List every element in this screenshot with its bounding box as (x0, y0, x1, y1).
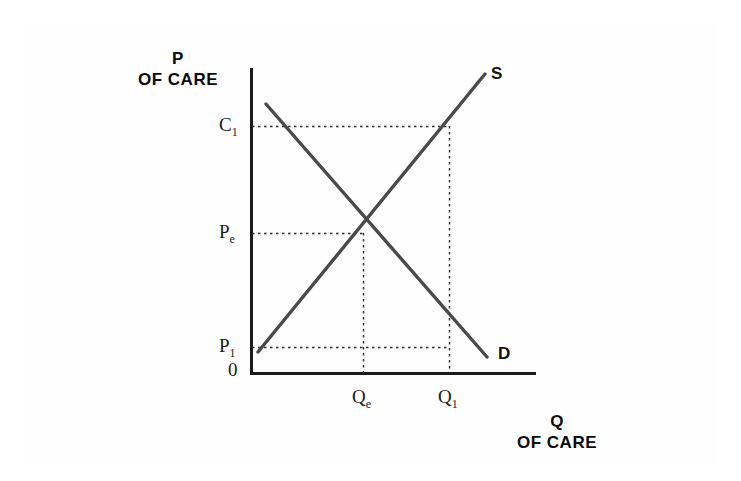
price-tick-c1-sub: 1 (232, 125, 238, 139)
supply-curve (258, 74, 485, 352)
y-axis-title-line2: OF CARE (108, 71, 248, 88)
quantity-tick-q1-base: Q (438, 386, 452, 407)
origin-label: 0 (228, 360, 238, 379)
x-axis-title: Q OF CARE (487, 413, 627, 451)
price-tick-pe-base: P (219, 221, 230, 242)
demand-curve (266, 104, 487, 357)
quantity-tick-qe-base: Q (352, 386, 366, 407)
x-axis-title-line1: Q (550, 412, 564, 431)
price-tick-p1: P1 (219, 336, 236, 355)
price-tick-pe-sub: e (230, 232, 235, 246)
price-tick-c1-base: C (219, 114, 232, 135)
quantity-tick-q1: Q1 (438, 387, 458, 406)
x-axis-title-line2: OF CARE (487, 434, 627, 451)
quantity-tick-qe-sub: e (366, 397, 371, 411)
quantity-tick-qe: Qe (352, 387, 371, 406)
price-tick-pe: Pe (219, 222, 235, 241)
supply-curve-label: S (491, 65, 502, 82)
quantity-tick-q1-sub: 1 (452, 397, 458, 411)
price-tick-p1-sub: 1 (230, 346, 236, 360)
demand-curve-label: D (498, 345, 510, 362)
y-axis-title: P OF CARE (108, 50, 248, 88)
price-tick-c1: C1 (219, 115, 238, 134)
figure-canvas: P OF CARE Q OF CARE C1 Pe P1 0 Qe Q1 S D (0, 0, 741, 481)
price-tick-p1-base: P (219, 335, 230, 356)
y-axis-title-line1: P (172, 49, 184, 68)
